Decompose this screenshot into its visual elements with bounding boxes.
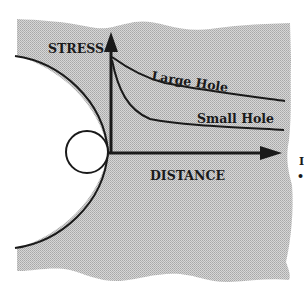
small-hole-circle — [66, 131, 108, 173]
edge-fragment-1: I — [299, 155, 304, 168]
small-hole-label: Small Hole — [197, 111, 274, 126]
stress-axis-label: STRESS — [48, 41, 104, 56]
distance-axis-label: DISTANCE — [150, 168, 225, 183]
edge-fragment-2: • — [297, 170, 304, 183]
shaded-region — [17, 19, 293, 282]
stress-distance-diagram: STRESS Large Hole Small Hole DISTANCE I … — [0, 0, 304, 294]
